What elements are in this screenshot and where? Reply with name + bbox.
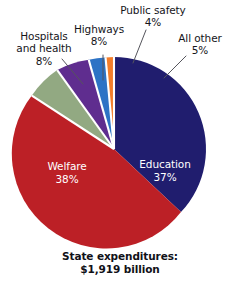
slice-callout-highways-percent: 8% [66, 35, 132, 47]
slice-label-welfare-name: Welfare [47, 160, 86, 172]
chart-caption: State expenditures: $1,919 billion [0, 250, 240, 276]
slice-label-welfare-percent: 38% [30, 173, 104, 186]
slice-callout-all-other: All other 5% [166, 32, 234, 57]
slice-callout-hospitals-and-health-line1: Hospitals [20, 30, 67, 42]
slice-label-education: Education 37% [124, 158, 206, 183]
slice-label-education-percent: 37% [124, 171, 206, 184]
leader-line-public-safety [133, 30, 146, 63]
leader-line-all-other [164, 56, 186, 78]
slice-callout-public-safety-label: Public safety [120, 4, 186, 16]
slice-callout-public-safety-percent: 4% [112, 16, 194, 28]
chart-caption-line2: $1,919 billion [0, 263, 240, 276]
slice-callout-all-other-label: All other [178, 32, 221, 44]
slice-label-welfare: Welfare 38% [30, 160, 104, 185]
slice-callout-public-safety: Public safety 4% [112, 4, 194, 29]
pie-chart-figure: Hospitals and health 8% Highways 8% Publ… [0, 0, 240, 282]
slice-callout-all-other-percent: 5% [166, 44, 234, 56]
slice-label-education-name: Education [139, 158, 190, 170]
slice-callout-hospitals-and-health-percent: 8% [2, 55, 86, 67]
chart-caption-line1: State expenditures: [62, 250, 178, 262]
